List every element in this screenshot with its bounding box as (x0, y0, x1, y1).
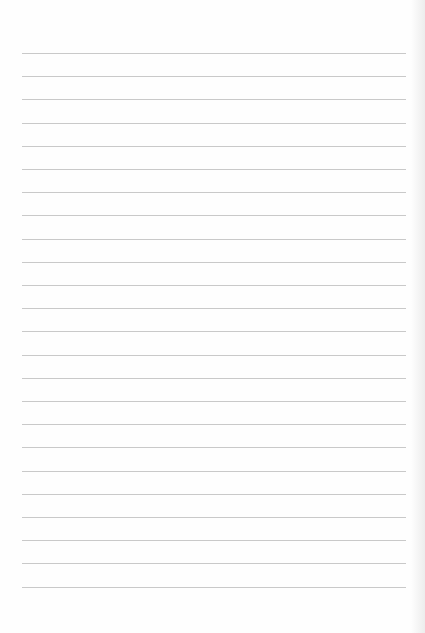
ruled-line (22, 123, 406, 124)
ruled-line (22, 146, 406, 147)
ruled-line (22, 424, 406, 425)
ruled-lines (0, 0, 425, 633)
ruled-line (22, 285, 406, 286)
ruled-line (22, 563, 406, 564)
ruled-line (22, 308, 406, 309)
ruled-line (22, 517, 406, 518)
ruled-line (22, 239, 406, 240)
ruled-line (22, 540, 406, 541)
ruled-line (22, 494, 406, 495)
lined-paper-sheet (0, 0, 425, 633)
ruled-line (22, 331, 406, 332)
ruled-line (22, 587, 406, 588)
ruled-line (22, 447, 406, 448)
ruled-line (22, 215, 406, 216)
ruled-line (22, 471, 406, 472)
ruled-line (22, 53, 406, 54)
ruled-line (22, 262, 406, 263)
ruled-line (22, 99, 406, 100)
ruled-line (22, 76, 406, 77)
ruled-line (22, 169, 406, 170)
ruled-line (22, 401, 406, 402)
ruled-line (22, 192, 406, 193)
ruled-line (22, 355, 406, 356)
ruled-line (22, 378, 406, 379)
paper-edge-shadow (411, 0, 425, 633)
